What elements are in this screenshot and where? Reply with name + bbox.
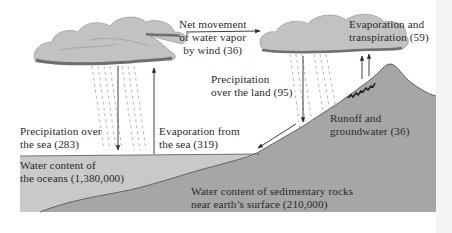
label-evap-sea: Evaporation from the sea (319) (159, 125, 240, 151)
label-rocks: Water content of sedimentary rocks near … (191, 185, 353, 211)
label-net-movement: Net movement of water vapor by wind (36) (179, 18, 246, 57)
cloud-left-icon (34, 17, 186, 64)
label-precip-sea: Precipitation over the sea (283) (20, 125, 102, 151)
label-runoff: Runoff and groundwater (36) (330, 112, 410, 138)
label-oceans: Water content of the oceans (1,380,000) (20, 159, 124, 185)
label-precip-land: Precipitation over the land (95) (211, 73, 293, 99)
label-evap-transpiration: Evaporation and transpiration (59) (349, 18, 429, 44)
